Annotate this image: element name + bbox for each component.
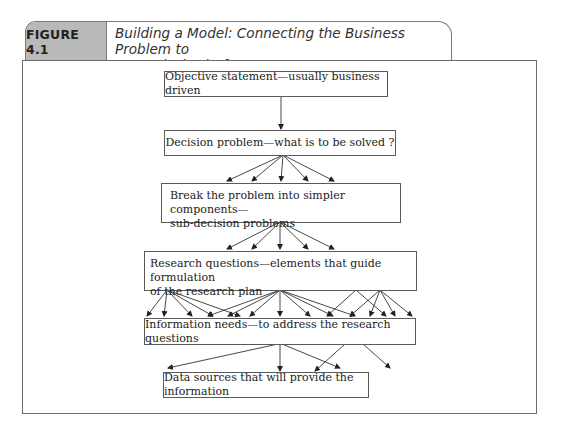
node-data-text: Data sources that will provide the infor…	[164, 371, 368, 399]
node-research-text-line-2: of the research plan	[150, 285, 416, 299]
node-break-text-line-2: sub-decision problems	[170, 217, 400, 231]
node-information-needs: Information needs—to address the researc…	[144, 318, 416, 345]
node-data-sources: Data sources that will provide the infor…	[163, 372, 369, 398]
node-info-text: Information needs—to address the researc…	[145, 318, 415, 346]
node-research-questions: Research questions—elements that guide f…	[144, 251, 417, 291]
node-break-text-line-1: Break the problem into simpler component…	[170, 189, 400, 217]
node-decision-text: Decision problem—what is to be solved ?	[166, 136, 395, 150]
node-objective-statement: Objective statement—usually business dri…	[164, 71, 388, 97]
node-decision-problem: Decision problem—what is to be solved ?	[164, 130, 396, 156]
node-research-text-line-1: Research questions—elements that guide f…	[150, 257, 416, 285]
node-objective-text: Objective statement—usually business dri…	[165, 70, 387, 98]
node-break-problem: Break the problem into simpler component…	[161, 183, 401, 223]
